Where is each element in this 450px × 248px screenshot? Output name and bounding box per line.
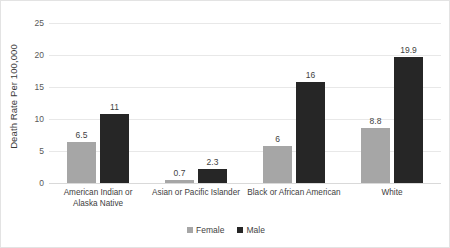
bar-group: 616	[245, 24, 343, 184]
bar-wrap: 2.3	[198, 24, 227, 184]
bar-wrap: 19.9	[394, 24, 423, 184]
bar-male[interactable]	[100, 114, 129, 184]
bar-female[interactable]	[361, 128, 390, 184]
legend-swatch-icon	[187, 227, 193, 233]
bar-group: 0.72.3	[147, 24, 245, 184]
category-label: American Indian or Alaska Native	[49, 187, 147, 221]
legend-label: Female	[196, 225, 224, 235]
y-axis-title: Death Rate Per 100,000	[3, 1, 23, 191]
bar-female[interactable]	[263, 146, 292, 184]
legend-item-female[interactable]: Female	[187, 225, 224, 235]
y-axis-title-text: Death Rate Per 100,000	[8, 44, 19, 149]
bar-wrap: 6.5	[67, 24, 96, 184]
bar-groups: 6.5110.72.36168.819.9	[49, 24, 441, 184]
bar-value-label: 16	[306, 70, 315, 80]
legend-swatch-icon	[237, 227, 243, 233]
y-tick-label: 0	[39, 178, 44, 188]
bar-female[interactable]	[67, 142, 96, 184]
bar-group: 8.819.9	[343, 24, 441, 184]
plot-area: 0510152025 6.5110.72.36168.819.9	[49, 24, 441, 184]
bar-value-label: 2.3	[207, 157, 219, 167]
bar-wrap: 6	[263, 24, 292, 184]
category-axis-labels: American Indian or Alaska NativeAsian or…	[49, 187, 441, 221]
category-label: Black or African American	[245, 187, 343, 221]
bar-value-label: 19.9	[400, 45, 417, 55]
bar-chart-figure: Death Rate Per 100,000 0510152025 6.5110…	[0, 0, 450, 248]
y-tick-label: 10	[35, 114, 44, 124]
bar-wrap: 11	[100, 24, 129, 184]
bar-value-label: 8.8	[370, 116, 382, 126]
y-tick-label: 5	[39, 146, 44, 156]
bar-wrap: 0.7	[165, 24, 194, 184]
bar-wrap: 16	[296, 24, 325, 184]
category-label: White	[343, 187, 441, 221]
bar-value-label: 11	[110, 102, 119, 112]
chart-legend: FemaleMale	[1, 225, 450, 235]
y-tick-label: 15	[35, 82, 44, 92]
bar-value-label: 0.7	[174, 168, 186, 178]
bar-wrap: 8.8	[361, 24, 390, 184]
x-axis-baseline	[49, 183, 441, 184]
legend-label: Male	[246, 225, 264, 235]
bar-male[interactable]	[198, 169, 227, 184]
bar-value-label: 6.5	[76, 130, 88, 140]
legend-item-male[interactable]: Male	[237, 225, 264, 235]
y-tick-label: 25	[35, 18, 44, 28]
bar-male[interactable]	[394, 57, 423, 184]
y-tick-label: 20	[35, 50, 44, 60]
bar-value-label: 6	[275, 134, 280, 144]
bar-male[interactable]	[296, 82, 325, 184]
category-label: Asian or Pacific Islander	[147, 187, 245, 221]
bar-group: 6.511	[49, 24, 147, 184]
